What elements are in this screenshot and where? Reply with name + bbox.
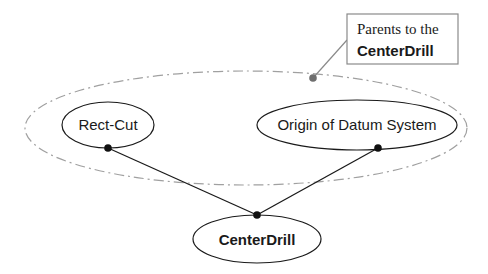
connection-dot-rect-cut [104,144,112,152]
group-anchor-dot [309,74,317,82]
callout-text-line2: CenterDrill [357,42,434,59]
connection-dot-origin [374,144,382,152]
edge-origin-to-centerdrill [257,148,378,215]
node-origin-of-datum-system[interactable]: Origin of Datum System [257,100,457,150]
node-label: CenterDrill [219,231,296,248]
connection-dot-centerdrill [253,211,261,219]
edge-rect-cut-to-centerdrill [108,148,257,215]
node-rect-cut[interactable]: Rect-Cut [62,102,154,148]
node-centerdrill[interactable]: CenterDrill [193,215,321,263]
node-label: Origin of Datum System [277,116,436,133]
callout-text-line1: Parents to the [357,21,439,37]
callout-box: Parents to the CenterDrill [347,14,458,64]
node-label: Rect-Cut [78,116,138,133]
callout-leader-line [313,40,347,78]
diagram-canvas: Parents to the CenterDrill Rect-Cut Orig… [0,0,488,274]
